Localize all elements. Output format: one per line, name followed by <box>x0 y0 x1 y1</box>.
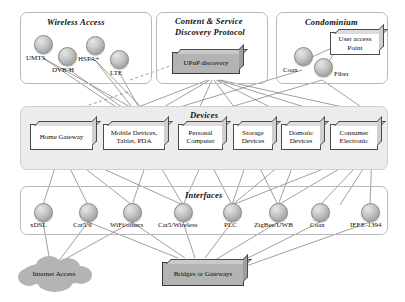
device-consumer-electronic-label-line1: Consumer <box>340 129 369 137</box>
panel-wireless-access-title: Wireless Access <box>47 17 105 27</box>
node-dvb-h[interactable] <box>58 47 77 66</box>
device-personal-computer-label-line2: Computer <box>187 137 215 145</box>
node-wifi-others-label: WiFi/others <box>110 221 143 229</box>
node-zigbee-uwb[interactable] <box>269 203 288 222</box>
user-access-point-label-line2: Point <box>348 44 363 52</box>
box-top-face <box>34 121 101 126</box>
box-side-face <box>243 254 248 282</box>
device-domotic-devices-label-line1: Domotic <box>289 129 314 137</box>
panel-content-service-title-line2: Discovery Protocol <box>175 27 245 37</box>
node-xdsl-label: xDSL <box>30 221 47 229</box>
device-storage-devices[interactable]: Storage Devices <box>233 124 273 150</box>
box-top-face <box>176 49 248 54</box>
device-storage-devices-label-line2: Devices <box>242 137 265 145</box>
node-coax-interface[interactable] <box>311 203 330 222</box>
node-lte[interactable] <box>110 50 129 69</box>
panel-condominium-title: Condominium <box>305 17 358 27</box>
node-lte-label: LTE <box>110 69 122 77</box>
node-xdsl[interactable] <box>34 203 53 222</box>
box-side-face <box>92 116 97 146</box>
device-personal-computer[interactable]: Personal Computer <box>178 124 223 150</box>
node-ieee-1394-label: IEEE-1394 <box>350 221 382 229</box>
device-storage-devices-label-line1: Storage <box>242 129 263 137</box>
node-dvb-h-label: DVB-H <box>52 66 74 74</box>
panel-content-service-title-line1: Content & Service <box>175 16 243 26</box>
node-ieee-1394[interactable] <box>361 203 380 222</box>
upnp-discovery-box[interactable]: UPnP discovery <box>172 52 240 74</box>
diagram-canvas: Wireless Access UMTS DVB-H HSPA+ LTE Con… <box>0 0 405 302</box>
device-domotic-devices[interactable]: Domotic Devices <box>281 124 321 150</box>
node-zigbee-uwb-label: ZigBee/UWB <box>254 221 293 229</box>
node-umts-label: UMTS <box>26 54 45 62</box>
device-mobile-devices-label-line1: Mobile Devices, <box>111 129 157 137</box>
internet-access-cloud[interactable]: Internet Access <box>22 262 86 286</box>
node-hspa-plus-label: HSPA+ <box>78 55 99 63</box>
box-side-face <box>164 116 169 146</box>
device-personal-computer-label-line1: Personal <box>188 129 212 137</box>
bridges-or-gateways-label: Bridges or Gateways <box>174 270 233 278</box>
bridges-or-gateways-box[interactable]: Bridges or Gateways <box>162 262 244 286</box>
node-fiber[interactable] <box>314 58 333 77</box>
node-coax-interface-label: Coax <box>310 221 325 229</box>
user-access-point-label-line1: User access <box>339 35 372 43</box>
device-consumer-electronic[interactable]: Consumer Electronic <box>330 124 378 150</box>
device-consumer-electronic-label-line2: Electronic <box>340 137 369 145</box>
panel-devices-title: Devices <box>190 110 218 120</box>
internet-access-label: Internet Access <box>33 270 76 278</box>
box-side-face <box>377 116 382 146</box>
device-home-gateway-label: Home Gateway <box>40 133 84 141</box>
node-hspa-plus[interactable] <box>86 36 105 55</box>
node-cat5-wireless[interactable] <box>174 203 193 222</box>
node-cat5-6[interactable] <box>79 203 98 222</box>
device-home-gateway[interactable]: Home Gateway <box>30 124 93 150</box>
upnp-discovery-label: UPnP discovery <box>183 59 228 67</box>
device-mobile-devices[interactable]: Mobile Devices, Tablet, PDA <box>103 124 165 150</box>
node-fiber-label: Fiber <box>334 70 349 78</box>
device-domotic-devices-label-line2: Devices <box>290 137 313 145</box>
box-side-face <box>222 116 227 146</box>
node-plc-label: PLC <box>224 221 237 229</box>
box-side-face <box>320 116 325 146</box>
node-cat5-6-label: Cat5/6 <box>73 221 92 229</box>
device-mobile-devices-label-line2: Tablet, PDA <box>117 137 152 145</box>
panel-interfaces-title: Interfaces <box>185 190 222 200</box>
node-coax-condominium[interactable] <box>294 47 313 66</box>
node-umts[interactable] <box>34 35 53 54</box>
node-wifi-others[interactable] <box>123 203 142 222</box>
node-coax-condominium-label: Coax <box>283 66 298 74</box>
node-cat5-wireless-label: Cat5/Wireless <box>158 221 197 229</box>
node-plc[interactable] <box>223 203 242 222</box>
user-access-point-box[interactable]: User access Point <box>330 32 380 55</box>
box-side-face <box>272 116 277 146</box>
box-top-face <box>166 259 252 264</box>
